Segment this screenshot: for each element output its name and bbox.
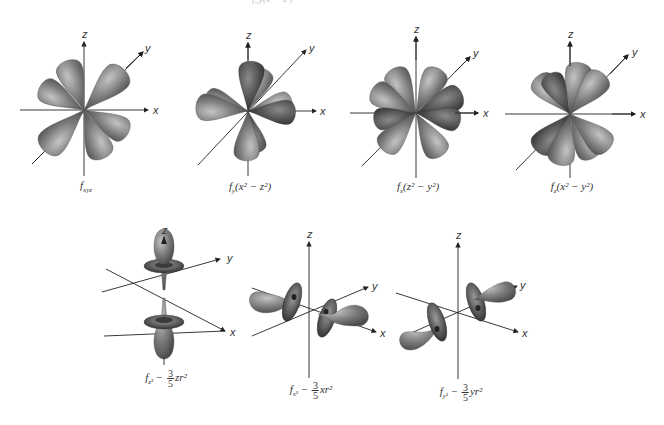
svg-text:x: x: [379, 327, 386, 339]
orbital-fz-x2-y2: z x y: [505, 28, 646, 178]
orbital-fx3: z y x: [249, 228, 386, 378]
svg-text:z: z: [306, 228, 313, 240]
label-fy-x2-z2: fy(x² − z²): [229, 180, 271, 195]
svg-text:y: y: [371, 280, 379, 292]
svg-text:z: z: [161, 224, 168, 236]
label-fxyz: fxyz: [80, 179, 92, 194]
orbital-fxyz: z x y: [20, 28, 159, 176]
lobe-pos-x: [313, 297, 368, 340]
svg-text:y: y: [472, 47, 480, 59]
orbital-fx-z2-y2: z x y: [350, 23, 489, 178]
x-axis-label: x: [152, 104, 159, 116]
orbital-fy3: z y x: [396, 229, 528, 379]
svg-text:x: x: [521, 327, 528, 339]
svg-text:z: z: [245, 29, 252, 41]
svg-text:x: x: [639, 108, 646, 120]
label-fz3: fz³ − 35zr²: [145, 369, 187, 388]
svg-text:y: y: [519, 279, 527, 291]
svg-text:z: z: [455, 229, 462, 241]
label-fy3: fy³ − 35yr²: [440, 383, 483, 402]
orbital-fz3: z y x: [102, 224, 236, 365]
label-fx-z2-y2: fx(z² − y²): [397, 180, 439, 195]
svg-text:x: x: [229, 326, 236, 338]
svg-text:z: z: [413, 23, 420, 35]
label-fx3: fx³ − 35xr²: [290, 381, 333, 400]
svg-text:x: x: [482, 107, 489, 119]
f-orbitals-diagram: z x y z x y: [0, 0, 664, 425]
svg-text:y: y: [226, 252, 234, 264]
svg-text:z: z: [567, 28, 574, 40]
svg-text:y: y: [308, 42, 316, 54]
svg-text:x: x: [319, 105, 326, 117]
orbital-fy-x2-z2: z x y: [195, 29, 326, 176]
label-fz-x2-y2: fz(x² − y²): [551, 180, 593, 195]
svg-text:y: y: [631, 46, 639, 58]
y-axis-label: y: [144, 42, 152, 54]
z-axis-label: z: [81, 28, 88, 40]
